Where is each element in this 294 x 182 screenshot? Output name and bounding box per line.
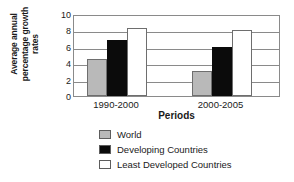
bar-world-1990-2000 (87, 59, 107, 96)
y-axis-title: Average annual percentage growth rates (3, 0, 47, 99)
x-axis-title: Periods (73, 110, 280, 122)
x-axis-tick-label-2: 2000-2005 (191, 99, 251, 110)
y-tick-4: 4 (55, 60, 71, 69)
legend-label: World (117, 129, 142, 140)
y-axis-title-line-1: Average annual (9, 13, 20, 75)
y-tick-0: 0 (55, 93, 71, 102)
bar-least-1990-2000 (127, 28, 147, 96)
bar-developing-2000-2005 (212, 47, 232, 96)
legend-label: Least Developed Countries (117, 159, 232, 170)
bar-chart-figure: Average annual percentage growth rates 0… (0, 0, 294, 182)
bar-world-2000-2005 (192, 71, 212, 96)
legend-item: Developing Countries (99, 143, 232, 155)
bar-developing-1990-2000 (107, 40, 127, 96)
y-tick-6: 6 (55, 43, 71, 52)
legend-swatch-icon (99, 145, 111, 154)
plot-area (73, 15, 280, 97)
y-tick-2: 2 (55, 76, 71, 85)
y-axis-tick-labels: 0246810 (51, 15, 71, 97)
y-axis-title-line-3: rates (30, 34, 41, 54)
y-tick-10: 10 (55, 11, 71, 20)
legend-item: World (99, 128, 232, 140)
legend-swatch-icon (99, 160, 111, 169)
chart-legend: WorldDeveloping CountriesLeast Developed… (99, 128, 232, 170)
legend-item: Least Developed Countries (99, 158, 232, 170)
y-tick-8: 8 (55, 27, 71, 36)
y-axis-title-line-2: percentage growth (20, 7, 31, 81)
x-axis-tick-label-1: 1990-2000 (86, 99, 146, 110)
bar-least-2000-2005 (232, 30, 252, 96)
legend-swatch-icon (99, 130, 111, 139)
legend-label: Developing Countries (117, 144, 208, 155)
